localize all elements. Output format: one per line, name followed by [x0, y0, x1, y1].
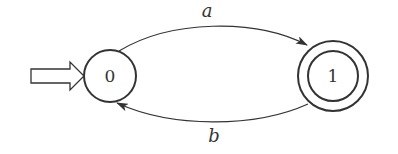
- automaton-diagram: a b 0 1: [0, 0, 398, 154]
- transition-edge-0-to-1: [119, 26, 307, 51]
- state-0: 0: [84, 50, 136, 102]
- state-0-label: 0: [105, 66, 116, 86]
- transition-label-b: b: [208, 125, 220, 146]
- state-1: 1: [298, 41, 368, 111]
- transition-edge-1-to-0: [117, 103, 308, 122]
- initial-state-arrow-icon: [31, 62, 84, 90]
- state-1-label: 1: [328, 66, 339, 86]
- transition-label-a: a: [202, 0, 213, 21]
